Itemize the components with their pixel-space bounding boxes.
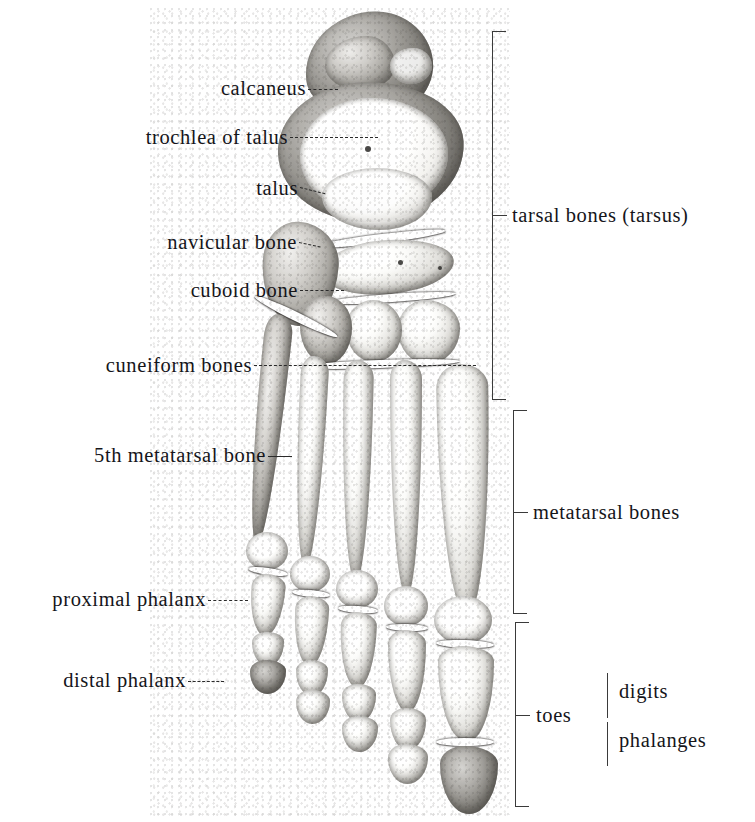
bone-proximal-phalanx-3 bbox=[339, 611, 378, 688]
bone-distal-phalanx-1 bbox=[440, 746, 498, 814]
label-trochlea-of-talus: trochlea of talus bbox=[0, 127, 288, 148]
bracket-tick-tarsal-bones bbox=[493, 215, 507, 216]
bone-talar-head bbox=[322, 168, 432, 230]
leader-calcaneus bbox=[308, 89, 338, 90]
bone-proximal-phalanx-2 bbox=[388, 630, 426, 712]
bone-calcaneus-highlight bbox=[390, 48, 432, 84]
label-navicular-bone: navicular bone bbox=[0, 232, 297, 253]
joint-ip-hallux bbox=[436, 738, 494, 746]
label-cuneiform-bones: cuneiform bones bbox=[0, 355, 252, 376]
leader-cuboid-bone bbox=[300, 290, 344, 291]
divider-digits bbox=[607, 673, 608, 718]
bone-foramen-navicular bbox=[398, 260, 403, 265]
bone-metatarsal-head-1 bbox=[434, 596, 492, 644]
bone-proximal-phalanx-1 bbox=[438, 646, 494, 742]
label-talus: talus bbox=[0, 178, 298, 199]
bone-metatarsal-4 bbox=[290, 355, 329, 568]
bone-metatarsal-5 bbox=[242, 313, 294, 547]
label-5th-metatarsal-bone: 5th metatarsal bone bbox=[0, 445, 266, 466]
label-cuboid-bone: cuboid bone bbox=[0, 280, 298, 301]
bracket-tick-metatarsal-bones bbox=[514, 512, 528, 513]
bone-intermediate-cuneiform bbox=[346, 300, 402, 362]
bracket-tick-toes bbox=[516, 715, 530, 716]
bone-medial-cuneiform bbox=[398, 300, 460, 364]
leader-5th-metatarsal-bone bbox=[268, 456, 292, 457]
divider-phalanges bbox=[607, 722, 608, 766]
label-metatarsal-bones: metatarsal bones bbox=[533, 502, 680, 523]
bone-metatarsal-head-5 bbox=[246, 532, 288, 570]
leader-proximal-phalanx bbox=[208, 600, 248, 601]
bone-metatarsal-3 bbox=[340, 360, 374, 582]
bone-metatarsal-head-2 bbox=[384, 586, 428, 626]
bone-distal-phalanx-3 bbox=[342, 716, 378, 752]
label-distal-phalanx: distal phalanx bbox=[0, 670, 186, 691]
label-phalanges: phalanges bbox=[619, 730, 706, 751]
bone-proximal-phalanx-5 bbox=[247, 573, 286, 638]
bone-metatarsal-1 bbox=[436, 364, 492, 617]
bone-metatarsal-2 bbox=[390, 360, 422, 596]
bone-distal-phalanx-5 bbox=[250, 660, 286, 694]
figure-canvas: calcaneus trochlea of talus talus navicu… bbox=[0, 0, 755, 822]
label-digits: digits bbox=[619, 681, 668, 702]
bone-foramen-talus bbox=[365, 146, 371, 152]
leader-cuneiform-bones bbox=[254, 365, 476, 366]
label-toes: toes bbox=[536, 705, 571, 726]
bone-foramen-navicular-2 bbox=[438, 266, 442, 270]
label-tarsal-bones: tarsal bones (tarsus) bbox=[512, 205, 689, 226]
leader-trochlea-of-talus bbox=[290, 137, 378, 138]
leader-distal-phalanx bbox=[188, 681, 224, 682]
label-proximal-phalanx: proximal phalanx bbox=[0, 589, 206, 610]
bone-distal-phalanx-4 bbox=[296, 690, 330, 724]
bone-proximal-phalanx-4 bbox=[292, 595, 330, 667]
bone-distal-phalanx-2 bbox=[388, 744, 428, 784]
bone-metatarsal-head-4 bbox=[290, 556, 330, 592]
bone-metatarsal-head-3 bbox=[336, 570, 378, 608]
label-calcaneus: calcaneus bbox=[0, 78, 306, 99]
